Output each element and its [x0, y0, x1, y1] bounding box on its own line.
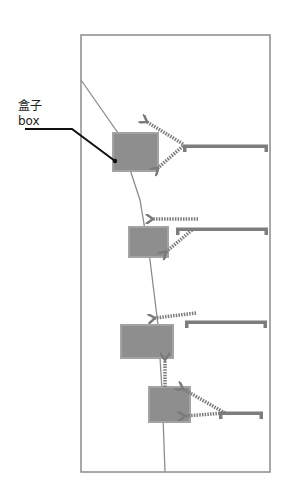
box-label-english: box — [18, 114, 42, 128]
box-1 — [113, 133, 158, 171]
leader-dot — [113, 159, 117, 163]
diagram-canvas — [0, 0, 283, 497]
rail-4 — [219, 412, 263, 420]
leader-line — [25, 129, 115, 161]
rail-1 — [183, 145, 268, 153]
rails-group — [176, 145, 268, 420]
force-arrow-2 — [158, 146, 183, 168]
box-2 — [129, 227, 168, 257]
force-arrow-5 — [155, 313, 196, 318]
box-label-chinese: 盒子 — [18, 99, 42, 113]
box-4 — [149, 387, 190, 422]
box-3 — [121, 325, 173, 358]
rail-3 — [185, 321, 267, 329]
box-label: 盒子 box — [18, 99, 42, 128]
